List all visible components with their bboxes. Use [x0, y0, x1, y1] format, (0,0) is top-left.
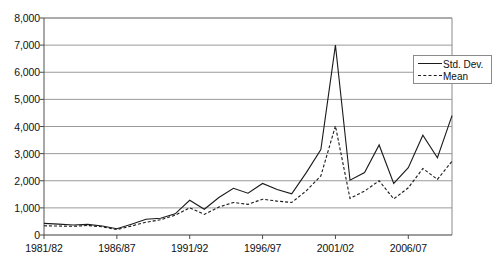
series-lines: [44, 45, 452, 229]
legend-line-icon-std-dev: [417, 59, 443, 69]
legend-item-std-dev: Std. Dev.: [417, 58, 491, 70]
chart-legend: Std. Dev. Mean: [413, 55, 492, 84]
series-line-mean: [44, 126, 452, 230]
x-axis-tick-label: 2001/02: [317, 243, 354, 254]
legend-label-std-dev: Std. Dev.: [443, 59, 483, 70]
plot-area: [0, 0, 498, 257]
legend-line-icon-mean: [417, 71, 443, 81]
legend-item-mean: Mean: [417, 70, 491, 82]
chart-container: 8,0007,0006,0005,0004,0003,0002,0001,000…: [0, 0, 498, 257]
x-axis-tick-label: 1991/92: [171, 243, 208, 254]
x-axis-tick-label: 2006/07: [390, 243, 427, 254]
x-axis-ticks: [44, 235, 408, 239]
x-axis-tick-label: 1996/97: [244, 243, 281, 254]
legend-label-mean: Mean: [443, 71, 468, 82]
x-axis-tick-label: 1981/82: [25, 243, 62, 254]
gridlines: [44, 18, 452, 208]
x-axis-tick-label: 1986/87: [98, 243, 135, 254]
